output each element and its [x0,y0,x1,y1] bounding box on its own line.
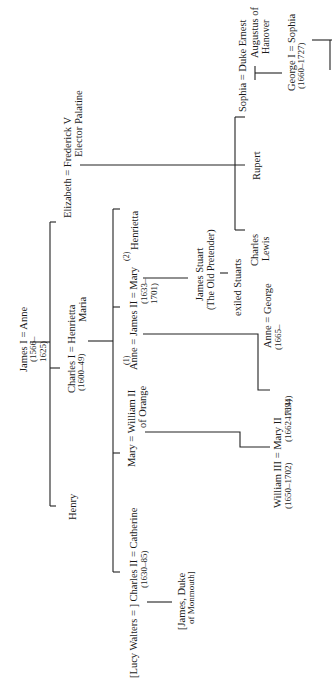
charles-lewis-name2: Lewis [260,234,271,266]
node-augustus: Augustus of Hanover [249,7,271,58]
henry-name: Henry [67,494,78,520]
charles-ii-name: [Lucy Walters = ] Charles II = Catherine [128,508,139,678]
node-monmouth: [James, Duke of Monmouth] [176,571,197,630]
node-charles-lewis: Charles Lewis [249,234,271,266]
node-charles-ii: [Lucy Walters = ] Charles II = Catherine [128,508,139,678]
james-ii-dates2: 1701) [150,279,160,305]
william-iii-name: William III = Mary II [272,417,283,508]
node-james-i: James I = Anne (1566– 1625) [18,307,48,372]
james-i-dates: (1566– [29,307,39,372]
node-anne-dates2: 1714) [284,399,294,420]
node-elizabeth: Elizabeth = Frederick V [62,117,73,218]
elector-palatine-name: Elector Palatine [73,90,84,157]
james-stuart-name: James Stuart [194,248,205,310]
node-rupert: Rupert [251,151,262,180]
node-james-ii: Anne = James II = Mary [128,267,139,370]
william-iii-dates: (1650–1702) [284,463,294,510]
marker-2: (2) [120,252,132,261]
anne-dates2: 1714) [284,399,294,420]
node-of-orange: of Orange [137,386,148,428]
elizabeth-name: Elizabeth = Frederick V [62,117,73,218]
marriage-marker-2: (2) [122,252,131,261]
anne-dates: (1665– [274,325,284,351]
charles-ii-dates: (1630–85) [140,551,150,589]
node-elector-palatine: Elector Palatine [73,90,84,157]
node-charles-i-spouse: Maria [77,297,88,322]
node-anne-george: Anne = George [262,283,273,348]
node-anne-dates: (1665– [274,325,284,351]
node-william-iii: William III = Mary II [272,417,283,508]
monmouth-name2: of Monmouth] [187,571,197,630]
charles-lewis-name: Charles [249,234,260,266]
node-exiled-stuarts: exiled Stuarts [232,259,243,316]
exiled-stuarts-name: exiled Stuarts [232,259,243,316]
hanover-name: Hanover [260,7,271,58]
mary-william-ii-name: Mary = William II [126,390,137,467]
marriage-marker-1: (1) [122,356,131,365]
node-henrietta: Henrietta [129,211,140,250]
george-i-dates: (1660–1727) [297,14,307,91]
node-james-stuart: James Stuart (The Old Pretender) [194,229,216,310]
rupert-name: Rupert [251,151,262,180]
node-william-iii-dates: (1650–1702) [284,463,294,510]
henrietta-name: Henrietta [129,211,140,250]
node-george-i: George I = Sophia (1660–1727) [286,14,307,91]
james-i-dates2: 1625) [39,307,49,372]
james-ii-name: Anne = James II = Mary [128,267,139,370]
old-pretender-name: (The Old Pretender) [205,229,216,310]
anne-george-name: Anne = George [262,283,273,348]
of-orange-name: of Orange [137,386,148,428]
node-henry: Henry [67,494,78,520]
node-sophia: Sophia = Duke Ernest [237,19,248,112]
node-charles-ii-dates: (1630–85) [140,551,150,589]
node-mary-william-ii: Mary = William II [126,390,137,467]
sophia-name: Sophia = Duke Ernest [237,19,248,112]
marker-1: (1) [120,356,132,365]
henrietta-maria-name2: Maria [77,297,88,322]
node-james-ii-dates: (1633– 1701) [140,279,159,305]
augustus-name: Augustus of [249,7,260,58]
